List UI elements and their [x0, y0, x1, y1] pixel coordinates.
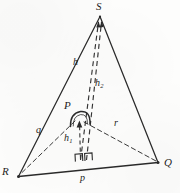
segment-label-r: r: [114, 118, 118, 128]
vertex-label-R: R: [2, 166, 9, 177]
segment-q-dashed: [21, 121, 76, 174]
segment-h-dashed: [81, 22, 99, 160]
right-angle-mark-base-left: [75, 154, 83, 162]
vertex-label-S: S: [96, 1, 102, 12]
segment-h2-dashed: [87, 22, 102, 160]
arrowhead-h1: [77, 121, 83, 128]
figure-canvas: [0, 0, 180, 193]
segment-label-p: p: [80, 173, 85, 183]
vertex-label-Q: Q: [164, 157, 172, 168]
right-angle-mark-base-right: [85, 153, 93, 161]
segment-label-h2: h2: [95, 78, 103, 88]
segment-label-h2-sub: 2: [100, 82, 103, 89]
side-RS: [19, 17, 101, 177]
side-RQ: [19, 163, 159, 177]
segment-label-h1: h1: [64, 133, 72, 143]
vertex-label-P: P: [64, 100, 71, 111]
geometry-figure: S R Q P q r p h h2 h1: [0, 0, 180, 193]
segment-r-dashed: [84, 122, 156, 161]
segment-label-h: h: [73, 57, 78, 67]
segment-label-q: q: [36, 125, 41, 135]
segment-label-h1-sub: 1: [69, 137, 72, 144]
side-SQ: [100, 17, 158, 163]
